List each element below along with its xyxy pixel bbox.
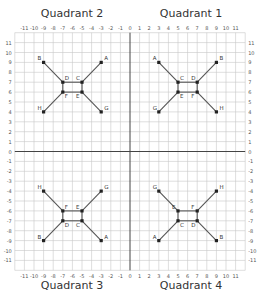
y-tick-label-left: -2 [7, 168, 12, 174]
point-label-E: E [76, 93, 80, 99]
point-label-H: H [38, 184, 42, 190]
x-tick-label-top: -10 [30, 25, 38, 31]
y-tick-label-left: 6 [9, 89, 12, 95]
x-tick-label-bottom: -10 [30, 273, 38, 279]
figure-quadrant-4: ABCDEFGH [153, 184, 224, 242]
point-label-B: B [38, 234, 42, 240]
point-label-F: F [191, 204, 194, 210]
figure-quadrant-1: ABCDEFGH [153, 55, 224, 113]
x-tick-label-top: -4 [89, 25, 94, 31]
point-label-G: G [104, 105, 108, 111]
y-tick-label-right: -1 [248, 158, 253, 164]
y-tick-label-right: 2 [248, 129, 251, 135]
x-tick-label-bottom: 3 [157, 273, 160, 279]
y-tick-label-left: 1 [9, 139, 12, 145]
x-tick-label-top: 6 [186, 25, 189, 31]
point-label-C: C [76, 75, 80, 81]
y-tick-label-left: 7 [9, 79, 12, 85]
y-tick-label-left: -4 [7, 188, 12, 194]
point-label-D: D [65, 75, 69, 81]
y-tick-label-right: -3 [248, 178, 253, 184]
point-label-E: E [172, 204, 176, 210]
figure-quadrant-3: ABCDEFGH [38, 184, 109, 242]
y-tick-label-right: 11 [248, 40, 254, 46]
point-H [42, 110, 45, 113]
y-tick-label-right: -9 [248, 238, 253, 244]
x-tick-label-top: 9 [215, 25, 218, 31]
x-tick-label-bottom: -9 [41, 273, 46, 279]
point-label-C: C [180, 75, 184, 81]
y-tick-label-right: -2 [248, 168, 253, 174]
y-tick-label-left: -6 [7, 208, 12, 214]
point-H [215, 190, 218, 193]
point-label-G: G [153, 105, 157, 111]
point-B [215, 61, 218, 64]
point-A [157, 239, 160, 242]
y-tick-label-right: 0 [248, 149, 251, 155]
y-tick-label-right: -4 [248, 188, 253, 194]
point-A [100, 61, 103, 64]
point-label-A: A [153, 55, 157, 61]
point-label-B: B [38, 55, 42, 61]
x-tick-label-top: 3 [157, 25, 160, 31]
x-tick-label-bottom: -3 [99, 273, 104, 279]
y-tick-label-right: 4 [248, 109, 251, 115]
point-label-A: A [104, 55, 108, 61]
y-tick-label-left: -5 [7, 198, 12, 204]
point-label-A: A [104, 234, 108, 240]
y-tick-label-left: -8 [7, 228, 12, 234]
point-D [196, 81, 199, 84]
point-label-G: G [104, 184, 108, 190]
x-tick-label-top: -1 [118, 25, 123, 31]
point-E [176, 209, 179, 212]
x-tick-label-top: 5 [176, 25, 179, 31]
point-label-B: B [219, 55, 223, 61]
point-B [215, 239, 218, 242]
x-tick-label-bottom: -11 [20, 273, 28, 279]
point-label-B: B [219, 234, 223, 240]
point-G [100, 190, 103, 193]
point-label-D: D [65, 222, 69, 228]
y-tick-label-right: 8 [248, 69, 251, 75]
point-F [196, 209, 199, 212]
x-tick-label-bottom: -4 [89, 273, 94, 279]
x-tick-label-top: -3 [99, 25, 104, 31]
y-tick-label-left: 2 [9, 129, 12, 135]
x-tick-label-bottom: 8 [205, 273, 208, 279]
x-tick-label-top: 2 [148, 25, 151, 31]
y-tick-label-left: -1 [7, 158, 12, 164]
point-G [157, 190, 160, 193]
x-tick-label-top: -8 [51, 25, 56, 31]
x-tick-label-top: -7 [60, 25, 65, 31]
y-tick-label-left: 3 [9, 119, 12, 125]
y-tick-label-left: 11 [5, 40, 11, 46]
x-tick-label-bottom: 10 [223, 273, 229, 279]
x-tick-label-bottom: 4 [167, 273, 170, 279]
x-tick-label-bottom: -8 [51, 273, 56, 279]
point-label-D: D [191, 75, 195, 81]
point-label-E: E [76, 204, 80, 210]
x-tick-label-bottom: -5 [80, 273, 85, 279]
point-label-C: C [76, 222, 80, 228]
x-tick-label-bottom: 2 [148, 273, 151, 279]
point-H [42, 190, 45, 193]
point-C [80, 81, 83, 84]
point-label-H: H [219, 184, 223, 190]
y-tick-label-right: -8 [248, 228, 253, 234]
y-tick-label-right: -6 [248, 208, 253, 214]
x-tick-label-top: 10 [223, 25, 229, 31]
x-tick-label-top: -5 [80, 25, 85, 31]
y-tick-label-right: 7 [248, 79, 251, 85]
point-E [80, 209, 83, 212]
x-tick-label-top: -9 [41, 25, 46, 31]
x-tick-label-bottom: 1 [138, 273, 141, 279]
y-tick-label-right: -5 [248, 198, 253, 204]
y-tick-label-left: -7 [7, 218, 12, 224]
point-A [100, 239, 103, 242]
x-tick-label-bottom: 6 [186, 273, 189, 279]
y-tick-label-right: 10 [248, 50, 254, 56]
y-tick-label-left: 4 [9, 109, 12, 115]
point-label-H: H [38, 105, 42, 111]
y-tick-label-left: -3 [7, 178, 12, 184]
y-tick-label-left: -9 [7, 238, 12, 244]
